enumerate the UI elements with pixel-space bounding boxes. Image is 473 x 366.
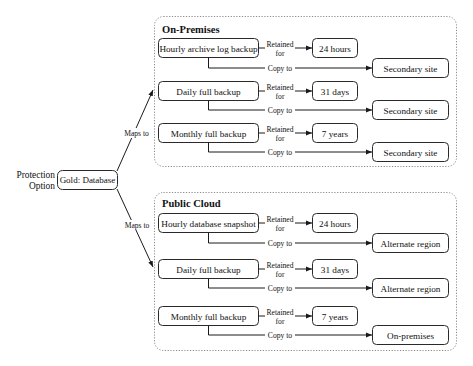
protection-label-line2: Option bbox=[29, 181, 55, 191]
copy-target-label: Alternate region bbox=[381, 284, 441, 294]
protection-option: Protection Option Gold: Database bbox=[16, 170, 117, 191]
site-title: On-Premises bbox=[162, 24, 220, 35]
copy-target-label: Secondary site bbox=[384, 64, 438, 74]
backup-type-label: Monthly full backup bbox=[171, 312, 247, 322]
retained-for-label: for bbox=[276, 49, 285, 58]
site-on-premises: On-Premises Hourly archive log backup Re… bbox=[155, 17, 457, 167]
retention-value: 31 days bbox=[321, 265, 350, 275]
retained-label: Retained bbox=[267, 40, 294, 49]
backup-type-label: Daily full backup bbox=[176, 87, 241, 97]
retained-for-label: for bbox=[276, 224, 285, 233]
copy-to-label: Copy to bbox=[268, 64, 292, 73]
site-public-cloud: Public Cloud Hourly database snapshot Re… bbox=[155, 193, 457, 351]
retention-value: 31 days bbox=[321, 87, 350, 97]
maps-to-public-cloud: Maps to bbox=[117, 189, 153, 267]
backup-type-label: Monthly full backup bbox=[171, 129, 247, 139]
retained-label: Retained bbox=[267, 83, 294, 92]
maps-to-label-upper: Maps to bbox=[124, 129, 149, 138]
copy-to-label: Copy to bbox=[268, 331, 292, 340]
copy-to-label: Copy to bbox=[268, 148, 292, 157]
gold-database-label: Gold: Database bbox=[60, 175, 116, 185]
maps-to-label-lower: Maps to bbox=[125, 221, 150, 230]
retained-for-label: for bbox=[276, 92, 285, 101]
retention-value: 7 years bbox=[322, 129, 349, 139]
backup-type-label: Hourly database snapshot bbox=[161, 219, 256, 229]
site-title: Public Cloud bbox=[162, 198, 221, 209]
retained-for-label: for bbox=[276, 134, 285, 143]
copy-target-label: On-premises bbox=[387, 331, 434, 341]
copy-target-label: Secondary site bbox=[384, 148, 438, 158]
retention-value: 7 years bbox=[322, 312, 349, 322]
copy-to-label: Copy to bbox=[268, 284, 292, 293]
retained-label: Retained bbox=[267, 308, 294, 317]
retained-label: Retained bbox=[267, 125, 294, 134]
backup-type-label: Hourly archive log backup bbox=[159, 44, 258, 54]
retention-value: 24 hours bbox=[319, 44, 351, 54]
copy-target-label: Alternate region bbox=[381, 239, 441, 249]
protection-mapping-diagram: Protection Option Gold: Database Maps to… bbox=[0, 0, 473, 366]
retention-value: 24 hours bbox=[319, 219, 351, 229]
copy-target-label: Secondary site bbox=[384, 106, 438, 116]
retained-for-label: for bbox=[276, 317, 285, 326]
retained-label: Retained bbox=[267, 261, 294, 270]
copy-to-label: Copy to bbox=[268, 239, 292, 248]
retained-for-label: for bbox=[276, 270, 285, 279]
maps-to-on-premises: Maps to bbox=[117, 90, 153, 171]
protection-label-line1: Protection bbox=[16, 170, 55, 180]
backup-type-label: Daily full backup bbox=[176, 265, 241, 275]
retained-label: Retained bbox=[267, 215, 294, 224]
copy-to-label: Copy to bbox=[268, 106, 292, 115]
